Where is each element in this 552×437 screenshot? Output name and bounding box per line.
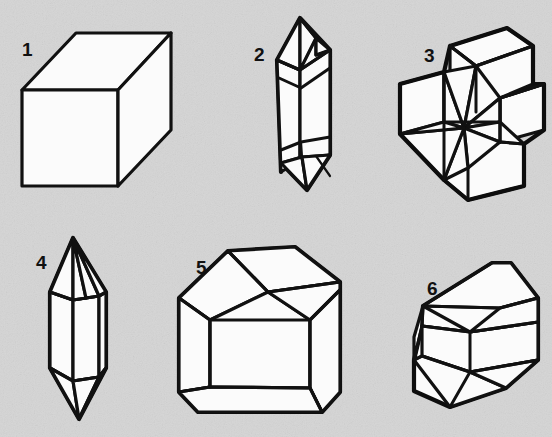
crystal-4-top-facet-left	[50, 238, 73, 300]
crystal-5-bottom-bevel	[179, 387, 322, 412]
crystal-label-4: 4	[36, 253, 47, 272]
crystal-4-prism-left	[50, 292, 73, 381]
crystal-6-edge-left-vert	[422, 306, 423, 326]
crystal-1-cube	[22, 33, 171, 186]
crystal-2-lower-girdle-tick	[301, 142, 302, 157]
crystal-forms-figure: 1 2 3 4 5 6	[0, 0, 552, 437]
crystal-4-slender-prism	[50, 238, 106, 419]
crystal-2-left-prism-face	[277, 60, 300, 172]
crystal-3-star-twin	[400, 28, 544, 200]
crystal-4-prism-mid	[73, 296, 99, 381]
crystal-3-edge-10	[500, 142, 524, 144]
crystal-2-hexagonal-prism	[277, 18, 330, 190]
crystal-label-2: 2	[254, 45, 265, 64]
cube-front-face	[22, 90, 118, 186]
crystal-label-3: 3	[424, 46, 435, 65]
crystal-drawings	[0, 0, 552, 437]
crystal-label-6: 6	[427, 279, 438, 298]
crystal-4-prism-right	[99, 292, 106, 377]
crystal-label-5: 5	[196, 258, 207, 277]
crystal-label-1: 1	[22, 40, 33, 59]
